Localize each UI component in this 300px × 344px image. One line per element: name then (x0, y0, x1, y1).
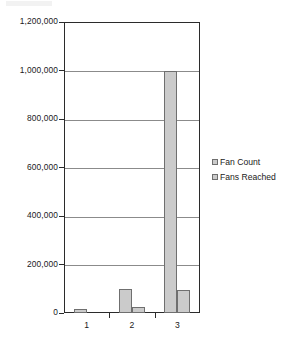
legend-label: Fans Reached (220, 172, 276, 182)
y-axis-tick-label: 1,200,000 (0, 17, 58, 26)
x-axis-tick-label: 1 (64, 320, 109, 331)
x-axis-tick-mark (109, 313, 110, 318)
x-axis-tick-mark (155, 313, 156, 318)
legend-label: Fan Count (220, 157, 260, 167)
legend-item: Fans Reached (212, 172, 300, 182)
y-axis-tick-label: 200,000 (0, 260, 58, 269)
x-axis: 123 (64, 313, 200, 344)
y-axis: 0200,000400,000600,000800,0001,000,0001,… (0, 0, 60, 344)
bar-chart: 0200,000400,000600,000800,0001,000,0001,… (0, 0, 300, 344)
bar (119, 289, 132, 313)
y-axis-tick-label: 1,000,000 (0, 66, 58, 75)
x-axis-tick-label: 2 (109, 320, 154, 331)
legend-swatch-icon (212, 159, 218, 165)
chart-legend: Fan CountFans Reached (212, 157, 300, 187)
y-axis-tick-label: 800,000 (0, 114, 58, 123)
y-axis-tick-label: 400,000 (0, 211, 58, 220)
bar (164, 71, 177, 314)
y-axis-tick-label: 600,000 (0, 163, 58, 172)
bar (177, 290, 190, 313)
bars-layer (64, 22, 200, 313)
y-axis-tick-label: 0 (0, 308, 58, 317)
x-axis-tick-label: 3 (155, 320, 200, 331)
legend-swatch-icon (212, 174, 218, 180)
legend-item: Fan Count (212, 157, 300, 167)
